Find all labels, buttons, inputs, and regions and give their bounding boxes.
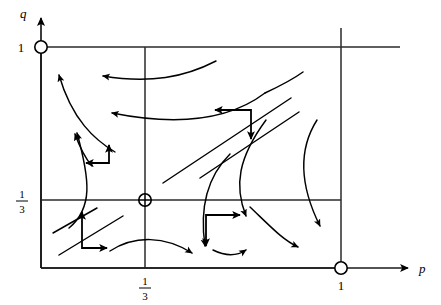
trajectory-lower-right-sweep — [250, 207, 298, 247]
trajectory-bottom-arc — [110, 240, 192, 253]
y-tick-label-1: 1 — [18, 40, 25, 55]
trajectories-group — [53, 61, 320, 255]
trajectory-upper-left-outer — [59, 75, 115, 152]
x-axis-label: p — [418, 261, 426, 276]
y-axis-label: q — [20, 6, 27, 21]
x-tick-fraction-denominator: 3 — [142, 290, 148, 302]
fixed-point-p1 — [335, 262, 347, 274]
fixed-point-origin-q1 — [35, 41, 47, 53]
corner-arrow-lower-right — [206, 215, 240, 246]
trajectory-diagonal-lower-1 — [53, 208, 97, 233]
trajectory-top-arc-2 — [112, 93, 265, 120]
x-tick-fraction-numerator: 1 — [142, 275, 148, 287]
x-tick-label-1: 1 — [338, 278, 345, 293]
trajectory-far-right-descend — [304, 120, 320, 226]
trajectory-lower-middle-right — [213, 250, 246, 255]
trajectory-top-arc-2-tail — [265, 72, 303, 93]
labels-group: q p 1 1 3 1 3 1 — [16, 6, 426, 302]
trajectory-right-steep-descend — [240, 120, 266, 216]
trajectory-diagonal-2 — [200, 112, 299, 178]
corner-arrow-upper-left — [86, 145, 109, 163]
corner-arrow-lower-left — [82, 212, 107, 248]
y-tick-label-one-third: 1 3 — [16, 188, 28, 215]
trajectory-left-s-curve — [69, 133, 87, 228]
phase-portrait-figure: q p 1 1 3 1 3 1 — [0, 0, 441, 305]
direction-arrows-group — [82, 110, 251, 248]
nullclines-group — [41, 28, 400, 268]
y-tick-fraction-denominator: 3 — [19, 203, 25, 215]
phase-portrait-svg: q p 1 1 3 1 3 1 — [0, 0, 441, 305]
y-tick-fraction-numerator: 1 — [19, 188, 25, 200]
trajectory-top-arc-1 — [103, 61, 216, 79]
x-tick-label-one-third: 1 3 — [139, 275, 151, 302]
